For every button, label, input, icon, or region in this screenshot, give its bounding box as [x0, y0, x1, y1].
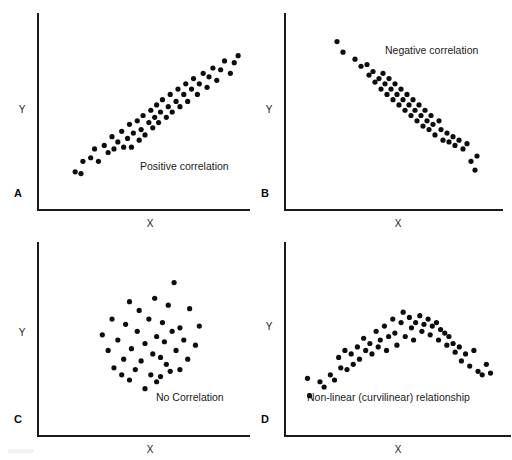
panel-d-annotation: Non-linear (curvilinear) relationship [307, 391, 470, 403]
scatter-point [468, 159, 473, 164]
scatter-point [96, 159, 101, 164]
scatter-point [474, 153, 479, 158]
scatter-point [338, 365, 343, 370]
scatter-point [129, 346, 134, 351]
scatter-point [392, 330, 397, 335]
scatter-point [480, 372, 485, 377]
scatter-point [102, 143, 107, 148]
scatter-point [197, 323, 202, 328]
scatter-point [125, 136, 130, 141]
scatter-point [197, 81, 202, 86]
scatter-point [450, 134, 455, 139]
cropped-caption-artifact [8, 449, 34, 453]
scatter-point [376, 76, 381, 81]
scatter-point [106, 150, 111, 155]
scatter-point [214, 78, 219, 83]
scatter-point [357, 357, 362, 362]
scatter-point [366, 72, 371, 77]
scatter-point [394, 343, 399, 348]
scatter-point [135, 329, 140, 334]
scatter-point [378, 337, 383, 342]
scatter-point [334, 39, 339, 44]
scatter-point [384, 92, 389, 97]
scatter-point [424, 118, 429, 123]
scatter-point [127, 122, 132, 127]
figure-canvas: Y X A Positive correlation Y X B Negativ… [0, 0, 512, 460]
scatter-point [402, 108, 407, 113]
scatter-point [158, 374, 163, 379]
scatter-point [173, 99, 178, 104]
panel-b-annotation: Negative correlation [385, 44, 479, 56]
scatter-point [78, 171, 83, 176]
scatter-point [317, 379, 322, 384]
panel-d-scatter-points [305, 310, 493, 399]
scatter-point [164, 115, 169, 120]
panel-c-scatter-points [100, 280, 202, 391]
scatter-point [193, 343, 198, 348]
scatter-point [206, 74, 211, 79]
scatter-point [156, 120, 161, 125]
scatter-point [191, 76, 196, 81]
scatter-point [438, 127, 443, 132]
scatter-point [142, 386, 147, 391]
panel-d: Y X D Non-linear (curvilinear) relations… [261, 243, 510, 455]
scatter-point [369, 351, 374, 356]
scatter-point [100, 332, 105, 337]
scatter-point [459, 358, 464, 363]
scatter-point [181, 92, 186, 97]
scatter-point [351, 362, 356, 367]
scatter-point [456, 138, 461, 143]
scatter-point [158, 355, 163, 360]
scatter-point [392, 81, 397, 86]
scatter-point [475, 369, 480, 374]
scatter-point [453, 350, 458, 355]
scatter-point [430, 122, 435, 127]
scatter-point [139, 127, 144, 132]
scatter-point [80, 159, 85, 164]
scatter-point [382, 323, 387, 328]
scatter-point [419, 329, 424, 334]
scatter-point [420, 123, 425, 128]
scatter-point [400, 97, 405, 102]
scatter-point [407, 315, 412, 320]
scatter-point [201, 71, 206, 76]
panel-d-y-axis-label: Y [266, 321, 273, 332]
scatter-point [430, 323, 435, 328]
scatter-point [332, 377, 337, 382]
scatter-point [401, 310, 406, 315]
panel-b-scatter-points [334, 39, 479, 173]
scatter-point [408, 113, 413, 118]
scatter-point [160, 97, 165, 102]
scatter-point [464, 141, 469, 146]
scatter-point [390, 317, 395, 322]
panel-a-x-axis-label: X [147, 218, 154, 229]
scatter-point [426, 317, 431, 322]
scatter-point [232, 60, 237, 65]
scatter-point [236, 53, 241, 58]
scatter-point [168, 369, 173, 374]
scatter-point [404, 92, 409, 97]
scatter-point [127, 299, 132, 304]
panel-d-x-axis-label: X [395, 444, 402, 455]
scatter-point [173, 348, 178, 353]
scatter-point [363, 348, 368, 353]
scatter-point [440, 138, 445, 143]
scatter-point [177, 325, 182, 330]
scatter-point [384, 348, 389, 353]
scatter-point [210, 65, 215, 70]
scatter-point [386, 334, 391, 339]
scatter-point [154, 334, 159, 339]
scatter-point [328, 372, 333, 377]
scatter-point [187, 306, 192, 311]
scatter-point [154, 102, 159, 107]
scatter-point [409, 325, 414, 330]
scatter-point [398, 320, 403, 325]
scatter-point [127, 377, 132, 382]
scatter-point [146, 120, 151, 125]
scatter-point [378, 87, 383, 92]
scatter-point [142, 341, 147, 346]
scatter-point [417, 313, 422, 318]
panel-c-annotation: No Correlation [156, 391, 224, 403]
scatter-point [183, 81, 188, 86]
scatter-point [170, 109, 175, 114]
